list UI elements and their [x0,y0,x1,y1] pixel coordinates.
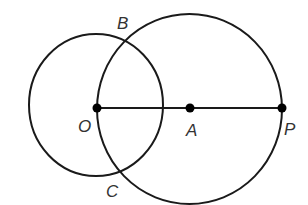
label-A: A [185,121,197,140]
label-C: C [106,182,119,201]
point-P-dot [278,104,287,113]
label-B: B [117,14,128,33]
point-A-dot [186,104,195,113]
label-P: P [284,120,296,139]
label-O: O [78,117,91,136]
geometry-diagram: B O A P C [0,0,308,205]
point-O-dot [93,104,102,113]
